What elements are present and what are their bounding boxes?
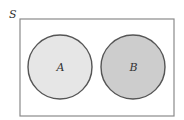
universe-label: S — [9, 8, 17, 21]
venn-diagram: S A B — [0, 0, 184, 120]
set-b-label: B — [129, 61, 138, 74]
set-a-label: A — [56, 61, 65, 74]
